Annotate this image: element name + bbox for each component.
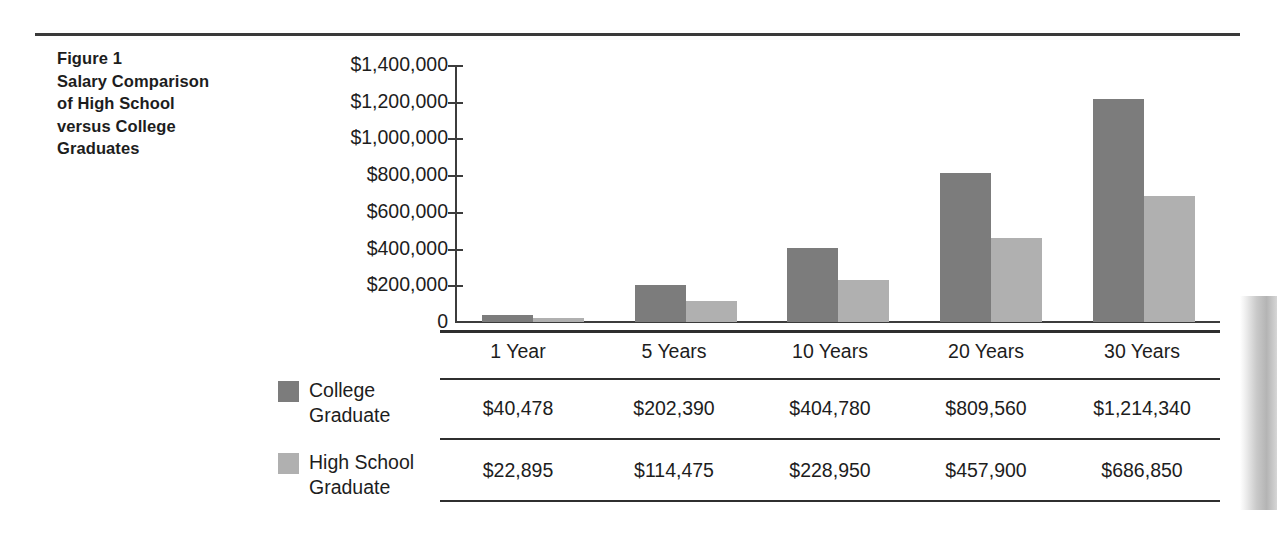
legend-item-high-school-graduate: High School Graduate bbox=[278, 450, 414, 500]
bar-college bbox=[787, 248, 838, 322]
bar-group bbox=[610, 65, 763, 322]
table-cell: $202,390 bbox=[596, 397, 752, 420]
bar-group bbox=[1067, 65, 1220, 322]
bar-chart: $1,400,000$1,200,000$1,000,000$800,000$6… bbox=[280, 55, 1220, 340]
y-tick-label: $800,000 bbox=[280, 165, 448, 185]
table-cell: $22,895 bbox=[440, 459, 596, 482]
table-header-row: 1 Year5 Years10 Years20 Years30 Years bbox=[440, 340, 1220, 363]
table-cell: $686,850 bbox=[1064, 459, 1220, 482]
legend-swatch-college-icon bbox=[278, 381, 299, 402]
table-cell: $457,900 bbox=[908, 459, 1064, 482]
bar-high-school bbox=[686, 301, 737, 322]
bar-group bbox=[915, 65, 1068, 322]
figure-caption: Figure 1 Salary Comparison of High Schoo… bbox=[57, 47, 272, 160]
bar-college bbox=[482, 315, 533, 322]
top-rule bbox=[35, 33, 1245, 36]
table-rule-row2 bbox=[440, 500, 1220, 502]
y-tick-label: $1,400,000 bbox=[280, 55, 448, 75]
caption-line-4: Graduates bbox=[57, 137, 272, 160]
table-cell: $114,475 bbox=[596, 459, 752, 482]
y-tick-label: $600,000 bbox=[280, 202, 448, 222]
caption-line-3: versus College bbox=[57, 115, 272, 138]
y-tick-label: $1,200,000 bbox=[280, 92, 448, 112]
bar-college bbox=[635, 285, 686, 322]
caption-line-0: Figure 1 bbox=[57, 47, 272, 70]
bar-group bbox=[762, 65, 915, 322]
caption-line-2: of High School bbox=[57, 92, 272, 115]
table-row: $22,895$114,475$228,950$457,900$686,850 bbox=[440, 459, 1220, 482]
table-row: $40,478$202,390$404,780$809,560$1,214,34… bbox=[440, 397, 1220, 420]
table-cell: $404,780 bbox=[752, 397, 908, 420]
bar-college bbox=[940, 173, 991, 322]
table-header-cell: 10 Years bbox=[752, 340, 908, 363]
bar-college bbox=[1093, 99, 1144, 322]
legend-label-college-line2: Graduate bbox=[309, 403, 390, 428]
y-tick-label: $400,000 bbox=[280, 239, 448, 259]
legend-item-college-graduate: College Graduate bbox=[278, 378, 390, 428]
y-tick-label: $1,000,000 bbox=[280, 129, 448, 149]
table-header-cell: 20 Years bbox=[908, 340, 1064, 363]
bar-group bbox=[457, 65, 610, 322]
table-rule-header bbox=[440, 378, 1220, 380]
legend-label-college: College Graduate bbox=[309, 378, 390, 428]
table-header-cell: 30 Years bbox=[1064, 340, 1220, 363]
y-tick-label: $200,000 bbox=[280, 276, 448, 296]
table-header-cell: 1 Year bbox=[440, 340, 596, 363]
bar-high-school bbox=[991, 238, 1042, 322]
table-rule-row1 bbox=[440, 438, 1220, 440]
table-header-cell: 5 Years bbox=[596, 340, 752, 363]
table-rule-top bbox=[440, 330, 1220, 333]
y-axis-labels: $1,400,000$1,200,000$1,000,000$800,000$6… bbox=[280, 55, 448, 340]
caption-line-1: Salary Comparison bbox=[57, 70, 272, 93]
bar-high-school bbox=[1144, 196, 1195, 322]
table-cell: $40,478 bbox=[440, 397, 596, 420]
table-cell: $1,214,340 bbox=[1064, 397, 1220, 420]
legend-label-high-school: High School Graduate bbox=[309, 450, 414, 500]
figure-page: Figure 1 Salary Comparison of High Schoo… bbox=[0, 0, 1277, 552]
y-tick-label: 0 bbox=[280, 312, 448, 332]
page-edge-notch-top bbox=[1240, 0, 1277, 296]
bar-high-school bbox=[838, 280, 889, 322]
table-cell: $228,950 bbox=[752, 459, 908, 482]
bar-high-school bbox=[533, 318, 584, 322]
plot-area bbox=[457, 65, 1220, 322]
legend-label-high-school-line1: High School bbox=[309, 450, 414, 475]
legend-swatch-high-school-icon bbox=[278, 453, 299, 474]
legend-label-high-school-line2: Graduate bbox=[309, 475, 414, 500]
table-cell: $809,560 bbox=[908, 397, 1064, 420]
page-edge-notch-bottom bbox=[1240, 510, 1277, 552]
legend-label-college-line1: College bbox=[309, 378, 390, 403]
